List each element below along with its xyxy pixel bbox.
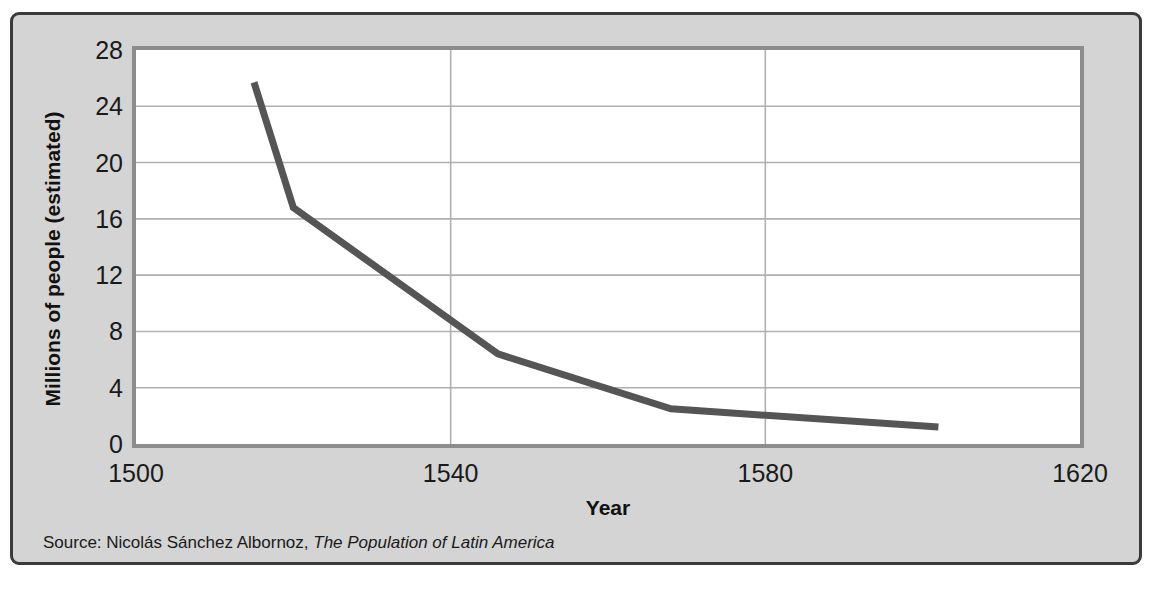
y-tick-4: 4 <box>65 375 123 400</box>
x-tick-1500: 1500 <box>108 461 164 486</box>
y-tick-0: 0 <box>65 432 123 457</box>
y-tick-12: 12 <box>65 263 123 288</box>
y-tick-16: 16 <box>65 206 123 231</box>
y-axis-title: Millions of people (estimated) <box>41 59 65 459</box>
plot-area <box>132 46 1084 448</box>
figure-panel: 0481216202428 Millions of people (estima… <box>10 12 1142 565</box>
population-line-series <box>136 50 1080 444</box>
x-axis-tick-labels: 1500154015801620 <box>132 461 1084 493</box>
x-tick-1540: 1540 <box>423 461 479 486</box>
y-axis-tick-labels: 0481216202428 <box>55 46 123 448</box>
y-tick-8: 8 <box>65 319 123 344</box>
y-tick-24: 24 <box>65 94 123 119</box>
source-book-title: The Population of Latin America <box>313 533 554 552</box>
x-axis-title: Year <box>132 496 1084 520</box>
source-prefix: Source: Nicolás Sánchez Albornoz, <box>43 533 313 552</box>
y-tick-28: 28 <box>65 38 123 63</box>
y-tick-20: 20 <box>65 150 123 175</box>
x-tick-1580: 1580 <box>738 461 794 486</box>
x-tick-1620: 1620 <box>1052 461 1108 486</box>
source-note: Source: Nicolás Sánchez Albornoz, The Po… <box>43 533 555 553</box>
